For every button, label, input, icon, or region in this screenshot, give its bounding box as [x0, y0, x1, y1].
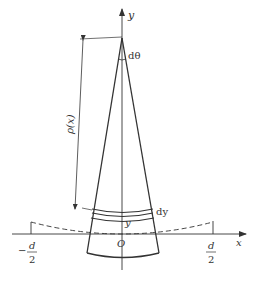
dy-label: dy	[156, 206, 168, 217]
left-limit-denominator: 2	[29, 254, 35, 265]
left-limit-sign: −	[18, 245, 26, 256]
left-limit-label: − d 2	[18, 240, 37, 265]
origin-label: O	[117, 238, 125, 249]
strip-arc-mid	[92, 213, 153, 217]
y-axis-label: y	[127, 9, 135, 22]
left-limit-numerator: d	[29, 240, 35, 251]
right-limit-denominator: 2	[208, 254, 214, 265]
right-limit-label: d 2	[206, 240, 216, 265]
angle-label: dθ	[128, 50, 140, 61]
right-limit-numerator: d	[208, 240, 214, 251]
radius-label: ρ(x)	[64, 114, 76, 135]
wedge-bottom-arc	[87, 253, 159, 258]
y-height-label: y	[124, 217, 131, 228]
x-axis-label: x	[236, 237, 242, 248]
radius-extension-top	[80, 37, 122, 39]
strip-arc-top	[92, 209, 153, 213]
radius-dimension-line	[75, 40, 83, 209]
strip-arc-bottom	[91, 218, 154, 222]
strip-leader-left	[82, 208, 92, 210]
wedge-diagram: y x O dy y ρ(x) dθ − d 2 d 2	[0, 0, 253, 282]
